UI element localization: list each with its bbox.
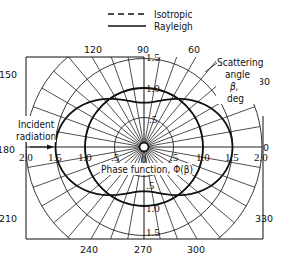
- incident-line: radiation: [16, 131, 56, 142]
- radial-labels-horizontal: 2.0 1.5 1.0 .5 0 .5 1.0 1.5 2.0: [19, 151, 268, 165]
- incident-arrow-head: [47, 145, 54, 150]
- annotation-line: deg: [227, 93, 244, 104]
- radial-spoke: [54, 71, 141, 144]
- angle-label: 150: [0, 69, 17, 80]
- annotation-leader: [205, 63, 217, 72]
- radial-label: .5: [149, 113, 158, 125]
- angle-label: 270: [134, 244, 152, 255]
- angle-label: 120: [84, 44, 102, 55]
- legend: Isotropic Rayleigh: [108, 9, 193, 32]
- radial-spoke: [148, 150, 235, 223]
- scattering-angle-annotation: Scattering angle β, deg: [205, 54, 263, 104]
- radial-label: 1.0: [146, 82, 160, 94]
- phase-function-label: Phase function, Φ(β): [101, 164, 193, 175]
- angle-label: 210: [0, 213, 17, 224]
- radial-label: 1.0: [78, 151, 92, 163]
- legend-rayleigh-label: Rayleigh: [154, 21, 193, 32]
- phase-function-label-group: Phase function, Φ(β): [100, 163, 193, 175]
- radial-label: 2.0: [254, 151, 268, 163]
- legend-isotropic-label: Isotropic: [154, 9, 193, 20]
- angle-label: 330: [255, 213, 273, 224]
- radial-spoke: [54, 150, 141, 223]
- incident-line: Incident: [18, 119, 55, 130]
- annotation-line: angle: [225, 69, 250, 80]
- angle-label: 180: [0, 144, 15, 155]
- radial-label: 1.5: [146, 51, 160, 63]
- angle-label: 60: [188, 44, 200, 55]
- radial-label: .5: [111, 151, 120, 163]
- radial-label: 1.5: [225, 151, 239, 163]
- radial-spoke: [149, 127, 260, 147]
- angle-label: 300: [187, 244, 205, 255]
- angle-label: 240: [80, 244, 98, 255]
- annotation-line: Scattering: [217, 57, 263, 68]
- origin-hub: [140, 143, 149, 152]
- radial-label: 1.5: [146, 226, 160, 238]
- radial-label: .5: [170, 151, 179, 163]
- radial-label: .5: [146, 179, 155, 191]
- radial-label: 1.0: [146, 202, 160, 214]
- polar-phase-function-diagram: Isotropic Rayleigh 030609012015018021024…: [0, 0, 291, 264]
- radial-label: 2.0: [19, 151, 33, 163]
- radial-label: 1.5: [48, 151, 62, 163]
- annotation-line: β,: [230, 81, 239, 92]
- incident-radiation-annotation: Incident radiation: [16, 116, 56, 150]
- radial-label: 1.0: [196, 151, 210, 163]
